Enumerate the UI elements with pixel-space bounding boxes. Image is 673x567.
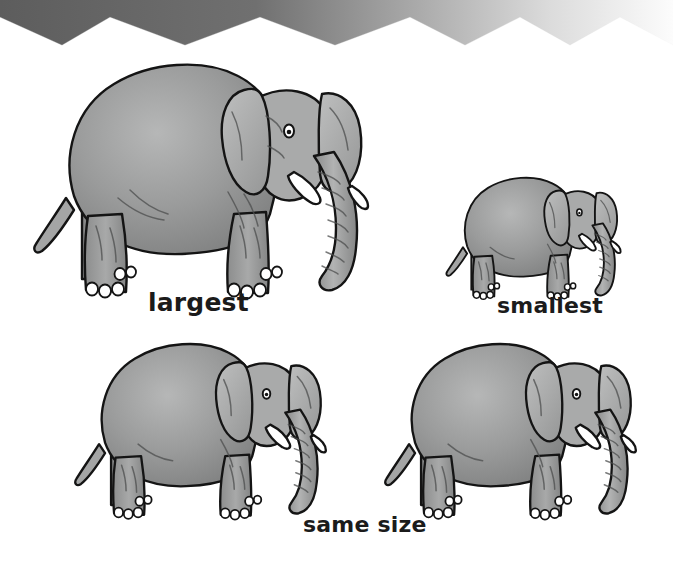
tail (75, 444, 105, 485)
tail (446, 247, 467, 275)
toenails-hind-near (114, 508, 143, 519)
toenails-front-near (531, 508, 560, 519)
same-size-elephant-right (376, 330, 635, 527)
worksheet-page: largest smallest same size (0, 0, 673, 567)
toenails-hind-near (473, 291, 493, 299)
front-leg-near (547, 255, 569, 297)
largest-elephant (22, 46, 367, 308)
eye-pupil (578, 212, 580, 214)
toenails-front-far (555, 496, 571, 506)
label-largest: largest (148, 290, 249, 315)
toenails-front-far (564, 283, 575, 290)
label-smallest: smallest (497, 295, 603, 317)
toenails-front-near (221, 508, 250, 519)
tail (385, 444, 415, 485)
front-leg-near (220, 455, 251, 516)
same-size-elephant-left (66, 330, 325, 527)
smallest-elephant (440, 168, 620, 305)
front-leg-near (530, 455, 561, 516)
zigzag-banner (0, 0, 673, 48)
toenails-hind-near (424, 508, 453, 519)
label-same-size: same size (303, 514, 427, 536)
eye-pupil (287, 130, 292, 135)
toenails-front-far (245, 496, 261, 506)
toenails-hind-near (86, 283, 124, 298)
front-leg-near (227, 212, 269, 293)
toenails-front-far (261, 267, 283, 281)
eye-pupil (265, 393, 268, 396)
tail (34, 198, 74, 252)
eye-pupil (575, 393, 578, 396)
